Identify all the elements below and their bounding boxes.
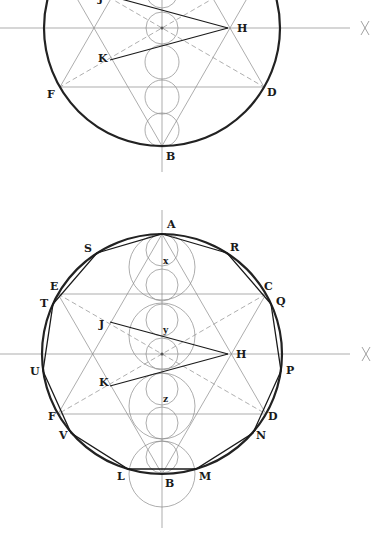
- point-label-c: C: [264, 280, 273, 293]
- line-j-h: [110, 322, 228, 354]
- line-k-h: [110, 28, 228, 60]
- hexagram-line: [60, 0, 162, 87]
- hexagram-line: [162, 0, 264, 146]
- point-label-b: B: [165, 477, 174, 490]
- geometry-diagram: JHKFDB ARSCQETJHPUKDFNVLMBxyz: [0, 0, 380, 543]
- point-label-j: J: [97, 0, 103, 5]
- point-label-u: U: [30, 365, 40, 378]
- point-label-s: S: [84, 242, 92, 255]
- point-label-j: J: [98, 318, 104, 331]
- point-label-x: x: [163, 256, 169, 266]
- point-label-z: z: [163, 394, 168, 404]
- point-label-v: V: [58, 429, 68, 442]
- point-label-e: E: [50, 280, 58, 293]
- point-label-p: P: [286, 364, 294, 377]
- point-label-d: D: [268, 410, 278, 423]
- point-label-l: L: [117, 470, 125, 483]
- vertex-tick: [94, 251, 101, 255]
- center-point: [160, 26, 163, 29]
- point-label-n: N: [256, 429, 266, 442]
- point-label-r: R: [230, 241, 240, 254]
- point-label-k: K: [98, 52, 108, 65]
- point-label-t: T: [40, 297, 49, 310]
- point-label-d: D: [267, 86, 277, 99]
- top-figure: JHKFDB: [0, 0, 369, 172]
- point-label-h: H: [237, 22, 247, 35]
- hexagram-line: [162, 0, 264, 87]
- bottom-figure: ARSCQETJHPUKDFNVLMBxyz: [0, 210, 370, 528]
- point-label-y: y: [162, 325, 169, 335]
- point-label-m: M: [199, 470, 211, 483]
- center-point: [160, 352, 163, 355]
- point-label-f: F: [47, 88, 55, 101]
- point-label-a: A: [166, 218, 176, 231]
- point-label-h: H: [236, 348, 246, 361]
- hexagram-line: [60, 0, 162, 146]
- line-k-h: [110, 354, 228, 386]
- point-label-b: B: [166, 150, 175, 163]
- point-label-f: F: [48, 410, 56, 423]
- point-label-q: Q: [276, 295, 286, 308]
- point-label-k: K: [99, 376, 109, 389]
